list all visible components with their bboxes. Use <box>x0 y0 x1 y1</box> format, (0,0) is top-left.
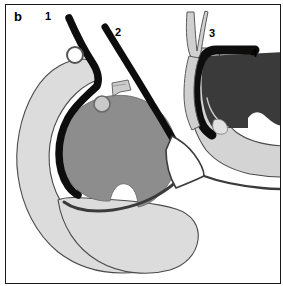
label-4: 4 <box>251 48 257 59</box>
figure-panel: b 1 2 3 4 <box>0 0 283 286</box>
anatomical-diagram-canvas <box>0 0 283 286</box>
label-3: 3 <box>209 28 215 39</box>
right-white-wedge <box>166 136 204 188</box>
dark-chamber <box>202 52 283 128</box>
lower-ring <box>94 96 110 112</box>
lower-right-curve <box>204 176 283 189</box>
label-1: 1 <box>45 11 51 22</box>
label-2: 2 <box>115 27 121 38</box>
panel-letter: b <box>14 10 22 23</box>
upper-ring <box>67 47 83 63</box>
small-flap <box>112 80 131 96</box>
